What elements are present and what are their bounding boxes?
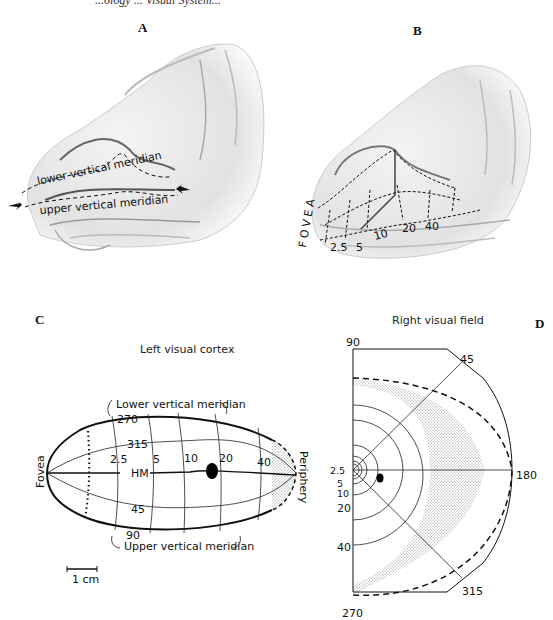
panel-d-angle-180: 180 (516, 469, 537, 482)
scale-bar-label: 1 cm (72, 573, 99, 586)
panel-c-periphery-label: Periphery (297, 451, 310, 504)
figure-canvas: lower vertical meridian upper vertical m… (0, 0, 553, 620)
panel-d-ecc-10: 10 (337, 488, 349, 499)
panel-c-upper-meridian-label: Upper vertical meridian (124, 540, 254, 553)
panel-d-ecc-20: 20 (337, 502, 351, 515)
panel-b-ecc-40: 40 (425, 220, 439, 233)
panel-d-angle-270: 270 (342, 607, 363, 620)
panel-d-visual-field-map: 90 45 180 315 270 2.5 5 10 20 40 (330, 336, 537, 620)
panel-d-angle-315: 315 (462, 585, 483, 598)
panel-c-ecc-40: 40 (257, 456, 271, 469)
panel-b-ecc-20: 20 (402, 222, 416, 235)
panel-c-ecc-5: 5 (153, 453, 160, 466)
blind-spot-marker (206, 463, 218, 479)
panel-b-ecc-2-5: 2.5 (330, 241, 348, 254)
panel-c-ecc-20: 20 (219, 452, 233, 465)
panel-c-angle-315: 315 (127, 438, 148, 451)
panel-b-brain-illustration: FOVEA 2.5 5 10 20 40 (296, 66, 530, 259)
panel-c-ecc-10: 10 (184, 452, 198, 465)
panel-c-angle-45: 45 (131, 503, 145, 516)
panel-c-ecc-2-5: 2.5 (110, 453, 128, 466)
panel-c-cortex-map: Lower vertical meridian 270 315 HM 45 90… (34, 398, 310, 586)
panel-d-angle-90: 90 (346, 336, 360, 349)
panel-d-angle-45: 45 (460, 353, 474, 366)
panel-d-ecc-2-5: 2.5 (330, 465, 345, 476)
arrow-left-icon (8, 199, 22, 210)
panel-d-ecc-40: 40 (337, 541, 351, 554)
panel-c-hm: HM (131, 467, 149, 480)
panel-c-fovea-label: Fovea (34, 455, 47, 488)
blind-spot-marker-d (377, 474, 384, 483)
panel-b-ecc-5: 5 (356, 241, 363, 254)
panel-a-brain-illustration: lower vertical meridian upper vertical m… (8, 44, 264, 250)
panel-c-angle-270: 270 (117, 413, 138, 426)
